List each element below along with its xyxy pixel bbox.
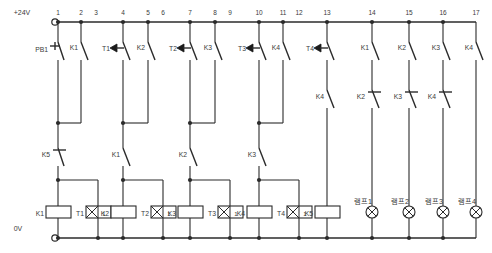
contact-t1-label: T1	[102, 45, 110, 52]
rung-number-10: 10	[255, 9, 263, 16]
coil-k4-label: K4	[237, 210, 246, 217]
k3-rung16-blade	[443, 42, 450, 60]
k4-rung13-blade	[327, 90, 334, 108]
junction-dot-k1-rail	[56, 236, 60, 240]
bottom-power-rail-group: 0V	[14, 225, 476, 241]
contact-t2-label: T2	[169, 45, 177, 52]
rung-number-8: 8	[213, 9, 217, 16]
contact-k4-nc-rung16-label: K4	[428, 93, 437, 100]
contact-k5-nc[interactable]: K5	[42, 148, 66, 166]
coil-t3-label: T3	[208, 210, 216, 217]
lamp-1-label: 램프1	[354, 197, 372, 206]
rung-number-5: 5	[146, 9, 150, 16]
coil-t4-label: T4	[277, 210, 285, 217]
branch-group-1: PB1 K1 K5 K1	[35, 22, 111, 240]
lamp-branch-2: K2 K3 램프2	[391, 22, 418, 240]
junction-dot-k2-rail	[121, 236, 125, 240]
contact-pb1[interactable]: PB1	[35, 42, 64, 60]
t2-contact-blade	[190, 42, 197, 60]
contact-k3-rung8[interactable]: K3	[204, 42, 222, 60]
junction-dot-t4-rail	[297, 236, 301, 240]
pb1-blade	[58, 42, 64, 60]
coil-t2-label: T2	[141, 210, 149, 217]
rung-number-labels-group: 1 2 3 4 5 6 7 8 9 10 11 12 13 14 15 16 1…	[56, 9, 480, 16]
junction-dot-lamp1-rail	[370, 236, 374, 240]
contact-k3-nc-rung15[interactable]: K3	[394, 90, 418, 108]
k2-lower-blade	[190, 148, 197, 166]
k2-rung5-blade	[148, 42, 155, 60]
contact-t2-timed[interactable]: T2	[169, 42, 197, 60]
contact-k3-nc-rung15-label: K3	[394, 93, 403, 100]
contact-k1-lower[interactable]: K1	[112, 148, 130, 166]
rung-number-15: 15	[405, 9, 413, 16]
contact-k4-rung17-label: K4	[465, 44, 474, 51]
rung-number-6: 6	[161, 9, 165, 16]
rung-number-4: 4	[121, 9, 125, 16]
t1-contact-blade	[123, 42, 130, 60]
contact-k5-label: K5	[42, 151, 51, 158]
contact-t4-timed[interactable]: T4	[306, 42, 334, 60]
rung-number-11: 11	[280, 9, 287, 16]
contact-k2-rung5-label: K2	[137, 44, 146, 51]
coil-k1[interactable]: K1	[36, 206, 71, 218]
coil-k4-box	[247, 206, 272, 218]
supply-ground-label: 0V	[14, 225, 23, 232]
lamp-branch-1: K1 K2 램프1	[354, 22, 381, 240]
contact-t3-label: T3	[238, 45, 246, 52]
rung-number-16: 16	[439, 9, 447, 16]
contact-k1-rung2[interactable]: K1	[70, 42, 88, 60]
junction-dot-lamp3-rail	[441, 236, 445, 240]
contact-t4-label: T4	[306, 45, 314, 52]
contact-k2-rung5[interactable]: K2	[137, 42, 155, 60]
contact-k1-rung14[interactable]: K1	[361, 42, 379, 60]
junction-dot-k3-rail	[188, 236, 192, 240]
lamp-4-label: 램프4	[458, 197, 476, 206]
contact-k2-rung15[interactable]: K2	[398, 42, 416, 60]
contact-k2-nc-rung14[interactable]: K2	[357, 90, 381, 108]
k4-rung11-blade	[283, 42, 290, 60]
contact-k4-rung11[interactable]: K4	[272, 42, 290, 60]
t4-contact-blade	[327, 42, 334, 60]
contact-k2-rung15-label: K2	[398, 44, 407, 51]
rung-number-12: 12	[295, 9, 303, 16]
coil-k1-box	[46, 206, 71, 218]
contact-k4-nc-rung16[interactable]: K4	[428, 90, 452, 108]
lamp-3[interactable]: 램프3	[425, 197, 449, 218]
branch-group-3: T2 K3 K2 K3 1 T3	[168, 22, 243, 240]
k2-rung15-blade	[409, 42, 416, 60]
contact-k3-rung8-label: K3	[204, 44, 213, 51]
junction-dot-lamp2-rail	[407, 236, 411, 240]
t1-contact-arrowhead	[110, 44, 117, 52]
k1-lower-blade	[123, 148, 130, 166]
contact-k4-rung11-label: K4	[272, 44, 281, 51]
contact-k4-rung17[interactable]: K4	[465, 42, 483, 60]
rung-number-9: 9	[228, 9, 232, 16]
lamp-branch-4: K4 램프4	[458, 22, 483, 238]
rung-number-13: 13	[323, 9, 331, 16]
junction-dot-tie1	[56, 121, 60, 125]
coil-k3-label: K3	[168, 210, 177, 217]
contact-t3-timed[interactable]: T3	[238, 42, 266, 60]
contact-k1-lower-label: K1	[112, 151, 121, 158]
contact-k4-rung13-label: K4	[316, 93, 325, 100]
contact-k1-rung2-label: K1	[70, 44, 79, 51]
rung-number-17: 17	[472, 9, 480, 16]
junction-dot-k4-rail	[257, 236, 261, 240]
junction-dot-tie3	[188, 121, 192, 125]
contact-k3-rung16-label: K3	[432, 44, 441, 51]
rung-number-3: 3	[94, 9, 98, 16]
contact-k2-lower-label: K2	[179, 151, 188, 158]
contact-t1-timed[interactable]: T1	[102, 42, 130, 60]
contact-k3-rung16[interactable]: K3	[432, 42, 450, 60]
coil-t1-label: T1	[76, 210, 84, 217]
contact-k2-lower[interactable]: K2	[179, 148, 197, 166]
contact-k3-lower[interactable]: K3	[248, 148, 266, 166]
lamp-3-label: 램프3	[425, 197, 443, 206]
lamp-4[interactable]: 램프4	[458, 197, 482, 218]
lamp-2[interactable]: 램프2	[391, 197, 415, 218]
k3-rung8-blade	[215, 42, 222, 60]
junction-dot-t2-rail	[161, 236, 165, 240]
lamp-1[interactable]: 램프1	[354, 197, 378, 218]
contact-k3-lower-label: K3	[248, 151, 257, 158]
contact-k4-rung13[interactable]: K4	[316, 90, 334, 108]
